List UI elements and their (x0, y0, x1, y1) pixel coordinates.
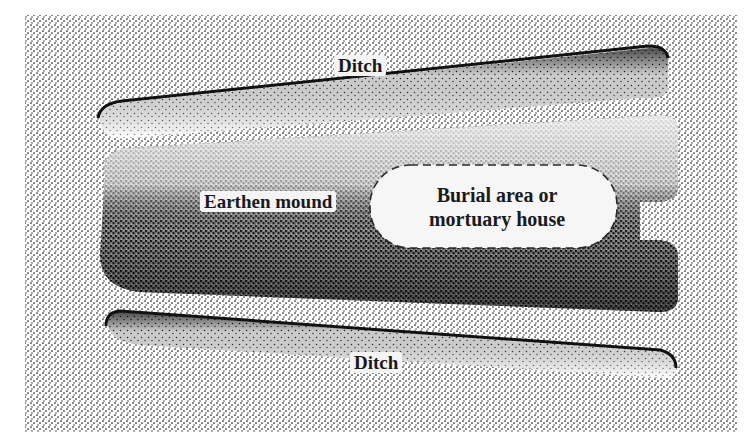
mound-label: Earthen mound (200, 191, 336, 212)
burial-label-line-1: Burial area or (392, 183, 602, 207)
burial-label-line-2: mortuary house (392, 207, 602, 231)
burial-area-label: Burial area or mortuary house (392, 183, 602, 231)
bottom-ditch-label: Ditch (350, 352, 402, 373)
long-barrow-diagram: Ditch Earthen mound Burial area or mortu… (0, 0, 749, 448)
top-ditch-label: Ditch (334, 55, 386, 76)
